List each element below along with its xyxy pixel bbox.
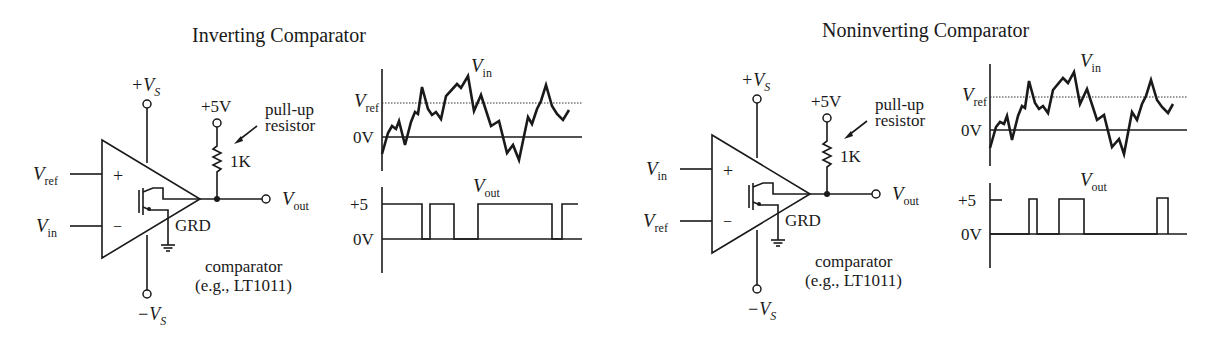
vout-plot: Vout +5 0V (958, 169, 1187, 268)
pullup-label-line2: resistor (265, 116, 315, 135)
pullup-supply-label: +5V (811, 92, 842, 111)
zero-label-out: 0V (353, 230, 375, 249)
supply-pos-terminal (753, 95, 761, 103)
high-label: +5 (350, 195, 368, 214)
title-noninverting: Noninverting Comparator (822, 19, 1030, 42)
resistor-icon (213, 127, 221, 199)
input-minus-label: Vref (643, 210, 668, 235)
supply-pos-label: +VS (741, 70, 770, 94)
noninverting-comparator: Noninverting Comparator +VS + − Vin Vref… (643, 19, 1030, 323)
zero-label-in: 0V (353, 128, 375, 147)
output-label: Vout (282, 188, 310, 213)
supply-neg-label: −VS (137, 304, 166, 328)
high-label: +5 (958, 191, 976, 210)
vin-label: Vin (471, 55, 492, 80)
ground-icon (771, 240, 785, 246)
vout-label: Vout (473, 175, 501, 200)
ground-label: GRD (785, 211, 821, 230)
pullup-label-line2: resistor (875, 111, 925, 130)
vout-waveform (990, 198, 1168, 234)
inverting-comparator: Inverting Comparator +VS + − Vref Vin (33, 24, 366, 328)
resistor-value: 1K (840, 147, 862, 166)
vref-label: Vref (354, 90, 379, 115)
plus-sign: + (113, 166, 123, 186)
pullup-supply-terminal (823, 114, 831, 122)
input-plus-label: Vref (33, 163, 58, 188)
resistor-value: 1K (230, 152, 252, 171)
supply-neg-terminal (753, 285, 761, 293)
zero-label-in: 0V (961, 121, 983, 140)
comparator-diagrams: Inverting Comparator +VS + − Vref Vin (0, 0, 1214, 344)
input-plus-label: Vin (646, 158, 667, 183)
ground-icon (161, 245, 175, 251)
pullup-resistor: +5V 1K pull-up resistor (811, 92, 925, 194)
resistor-icon (823, 122, 831, 194)
minus-sign: − (113, 218, 122, 235)
vin-waveform (382, 76, 569, 160)
ground-label: GRD (175, 216, 211, 235)
part-label-line1: comparator (815, 252, 893, 271)
supply-pos-label: +VS (131, 75, 160, 99)
negative-supply: −VS (137, 235, 166, 328)
noninverting-waveforms: Vin Vref 0V Vout +5 0V (958, 50, 1187, 268)
positive-supply: +VS (131, 75, 160, 163)
vin-plot: Vin Vref 0V (353, 55, 582, 171)
pullup-resistor: +5V 1K pull-up resistor (201, 97, 315, 199)
vref-label: Vref (962, 84, 987, 109)
vin-waveform (990, 72, 1173, 154)
vout-plot: Vout +5 0V (350, 175, 582, 273)
inverting-waveforms: Vin Vref 0V Vout +5 0V (350, 55, 582, 273)
vin-label: Vin (1080, 50, 1101, 75)
output-terminal (872, 190, 880, 198)
minus-sign: − (723, 213, 732, 230)
vout-label: Vout (1080, 169, 1108, 194)
pullup-supply-terminal (213, 119, 221, 127)
input-minus-label: Vin (36, 215, 57, 240)
vout-waveform (382, 204, 578, 239)
negative-supply: −VS (747, 230, 776, 323)
positive-supply: +VS (741, 70, 770, 158)
title-inverting: Inverting Comparator (192, 24, 366, 47)
pullup-supply-label: +5V (201, 97, 232, 116)
zero-label-out: 0V (961, 225, 983, 244)
part-label-line2: (e.g., LT1011) (195, 276, 292, 295)
output-terminal (262, 195, 270, 203)
part-label-line2: (e.g., LT1011) (805, 271, 902, 290)
part-label-line1: comparator (205, 257, 283, 276)
supply-pos-terminal (143, 100, 151, 108)
plus-sign: + (723, 161, 733, 181)
supply-neg-terminal (143, 290, 151, 298)
vin-plot: Vin Vref 0V (961, 50, 1187, 166)
output-label: Vout (892, 183, 920, 208)
supply-neg-label: −VS (747, 299, 776, 323)
